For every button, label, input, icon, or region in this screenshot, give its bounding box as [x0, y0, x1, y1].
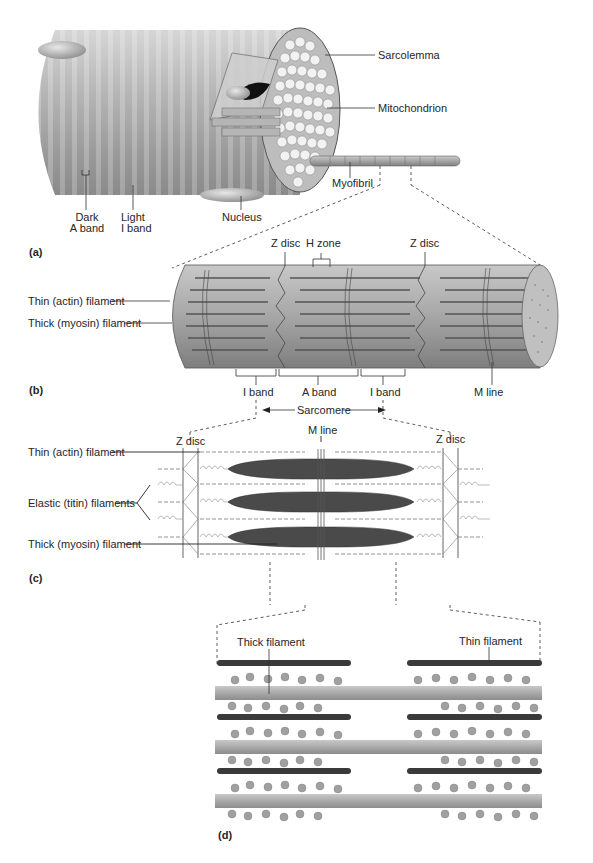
panel-letter-d: (d) [218, 829, 232, 841]
label-h-zone: H zone [306, 237, 341, 249]
label-m-line-c: M line [308, 424, 337, 436]
arrow-right-icon [378, 407, 386, 413]
label-light-i-band-line2: I band [121, 222, 152, 234]
label-z-disc-right-b: Z disc [410, 237, 439, 249]
label-thick-myosin-filament-b: Thick (myosin) filament [28, 317, 141, 329]
label-thick-myosin-filament-c: Thick (myosin) filament [28, 538, 141, 550]
myofibril [310, 156, 460, 166]
label-myofibril: Myofibril [332, 177, 373, 189]
label-i-band-right: I band [370, 386, 401, 398]
label-z-disc-right-c: Z disc [436, 433, 465, 445]
label-i-band-left: I band [243, 386, 274, 398]
muscle-structure-diagram [0, 0, 593, 863]
filament-molecular-detail [215, 647, 542, 821]
nucleus-bottom [200, 188, 264, 202]
panel-letter-b: (b) [29, 384, 43, 396]
label-a-band: A band [302, 386, 336, 398]
label-nucleus: Nucleus [222, 211, 262, 223]
label-m-line-b: M line [474, 386, 503, 398]
label-thin-actin-filament-b: Thin (actin) filament [28, 295, 125, 307]
label-thin-filament-d: Thin filament [459, 635, 522, 647]
label-thin-actin-filament-c: Thin (actin) filament [28, 446, 125, 458]
muscle-fiber [38, 28, 545, 268]
label-sarcomere: Sarcomere [297, 404, 351, 416]
label-elastic-titin-filaments: Elastic (titin) filaments [28, 497, 135, 509]
sarcomere-detail [112, 432, 540, 665]
label-sarcolemma: Sarcolemma [378, 49, 440, 61]
nucleus-top [38, 41, 86, 59]
arrow-left-icon [262, 407, 270, 413]
panel-letter-c: (c) [29, 572, 42, 584]
label-z-disc-left-b: Z disc [271, 237, 300, 249]
label-mitochondrion: Mitochondrion [378, 102, 447, 114]
panel-letter-a: (a) [29, 246, 42, 258]
label-dark-a-band-line2: A band [62, 222, 112, 234]
label-thick-filament-d: Thick filament [237, 636, 305, 648]
label-z-disc-left-c: Z disc [176, 435, 205, 447]
